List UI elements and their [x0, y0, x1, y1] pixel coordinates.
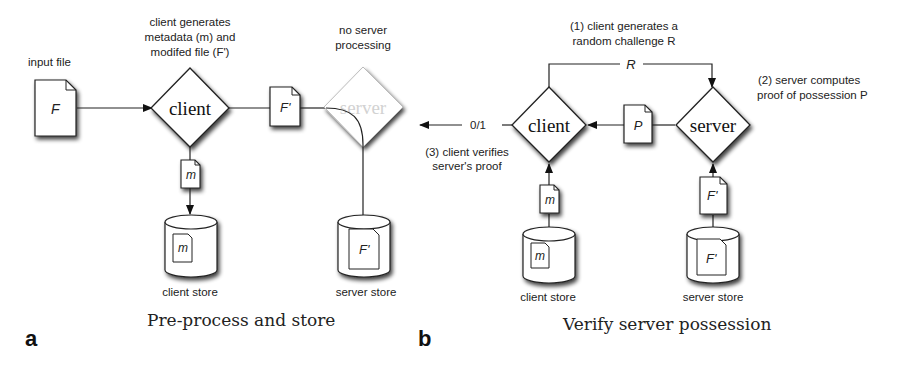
panel-b: (1) client generates a random challenge … [418, 20, 868, 351]
metadata-file-name: m [186, 168, 196, 182]
client-store-file-name: m [178, 241, 188, 255]
server-note-line2: processing [335, 39, 391, 51]
panel-b-caption: Verify server possession [562, 314, 771, 334]
server-note-line1: no server [339, 24, 387, 36]
client-note-line2: metadata (m) and [145, 31, 236, 43]
panel-a-caption: Pre-process and store [147, 310, 335, 330]
modified-file-name: F' [280, 100, 291, 115]
server-store-label: server store [336, 286, 397, 298]
server-store-label: server store [683, 291, 744, 303]
client-store-file-name: m [535, 249, 545, 263]
challenge-arrow [643, 64, 712, 87]
client-store-label: client store [162, 286, 218, 298]
result-label: 0/1 [470, 119, 486, 131]
input-file-label: input file [28, 56, 71, 68]
panel-a: input file F client generates metadata (… [25, 16, 403, 351]
client-note-line3: modifed file (F') [151, 46, 230, 58]
challenge-label: R [626, 57, 635, 72]
step2-line1: (2) server computes [758, 74, 861, 86]
metadata-file-name: m [545, 193, 555, 207]
server-store-file-name: F' [706, 251, 717, 266]
client-note-line1: client generates [149, 16, 230, 28]
input-file-name: F [51, 101, 61, 117]
server-node-label: server [340, 97, 387, 118]
server-node-label: server [690, 115, 737, 136]
step2-line2: proof of possession P [757, 89, 868, 101]
step3-line2: server's proof [432, 160, 502, 172]
client-node-label: client [169, 98, 212, 119]
panel-a-letter: a [25, 326, 38, 351]
client-node-label: client [528, 115, 571, 136]
client-store-label: client store [520, 291, 576, 303]
step3-line1: (3) client verifies [425, 146, 509, 158]
server-store-file-name: F' [359, 242, 370, 257]
step1-line2: random challenge R [573, 35, 676, 47]
server-file-name: F' [707, 188, 718, 203]
challenge-line-left [549, 64, 620, 87]
proof-file-name: P [634, 118, 643, 133]
step1-line1: (1) client generates a [570, 20, 679, 32]
pdp-diagram: input file F client generates metadata (… [0, 0, 904, 377]
panel-b-letter: b [418, 326, 431, 351]
